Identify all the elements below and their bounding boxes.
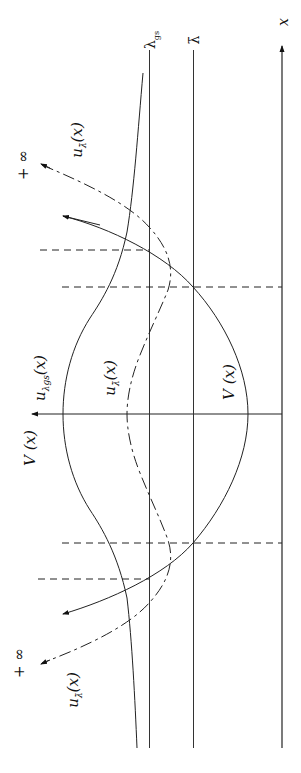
v-axis-label: V (x) xyxy=(21,430,39,466)
u-lambda-bar-arrow-bottom xyxy=(41,660,50,664)
potential-curve-upper-arrow xyxy=(63,216,100,225)
lambda-gs-label: λgs xyxy=(142,31,161,49)
x-axis-label: x xyxy=(275,18,291,26)
u-lambda-gs-curve xyxy=(63,73,143,748)
u-lambda-bar-arrow-top xyxy=(41,164,50,168)
diagram-canvas: x λgs λ̄ V (x) V (x) uλgs(x) uλ̄(x) uλ̄(… xyxy=(0,0,301,773)
lambda-bar-label: λ̄ xyxy=(186,35,202,44)
potential-curve xyxy=(63,216,248,614)
u-lambda-bar-tail-label-bottom: uλ̄(x) xyxy=(64,672,84,708)
u-lambda-bar-tail-label-top: uλ̄(x) xyxy=(68,122,88,158)
plus-infinity-bottom: + ∞ xyxy=(10,648,28,678)
potential-label: V (x) xyxy=(220,364,238,400)
u-lambda-gs-label: uλgs(x) xyxy=(31,355,51,401)
u-lambda-bar-label: uλ̄(x) xyxy=(101,360,121,396)
plus-infinity-top: + ∞ xyxy=(14,150,32,180)
